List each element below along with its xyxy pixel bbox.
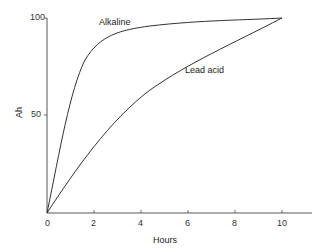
alkaline-curve xyxy=(47,18,282,213)
x-tick-2: 2 xyxy=(91,218,96,228)
x-axis-label: Hours xyxy=(153,235,177,245)
x-tick-10: 10 xyxy=(277,218,287,228)
alkaline-label: Alkaline xyxy=(99,17,131,27)
lead-acid-label: Lead acid xyxy=(185,65,224,75)
y-tick-50: 50 xyxy=(31,109,41,119)
x-tick-8: 8 xyxy=(232,218,237,228)
x-tick-0: 0 xyxy=(45,218,50,228)
x-tick-4: 4 xyxy=(138,218,143,228)
y-tick-100: 100 xyxy=(30,12,45,22)
y-axis-label: Ah xyxy=(14,107,24,118)
x-tick-6: 6 xyxy=(185,218,190,228)
lead-acid-curve xyxy=(47,18,282,213)
chart-canvas xyxy=(0,0,323,252)
